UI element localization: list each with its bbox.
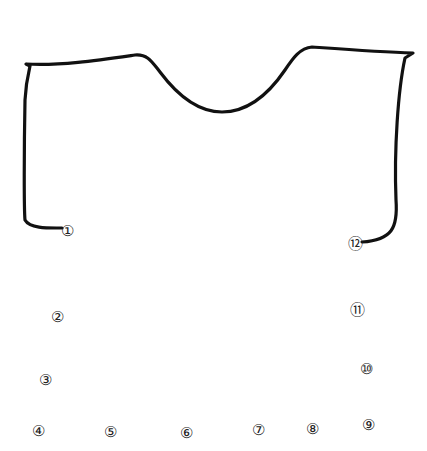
point-label-6: ⑥ <box>180 426 193 441</box>
pattern-outline-path <box>24 47 413 242</box>
point-label-11: ⑪ <box>350 303 365 318</box>
point-label-5: ⑤ <box>104 425 117 440</box>
point-label-9: ⑨ <box>362 418 375 433</box>
point-label-3: ③ <box>39 373 52 388</box>
point-label-12: ⑫ <box>348 237 363 252</box>
point-label-2: ② <box>51 310 64 325</box>
point-label-4: ④ <box>32 424 45 439</box>
point-label-8: ⑧ <box>306 422 319 437</box>
point-label-1: ① <box>61 224 74 239</box>
point-label-7: ⑦ <box>252 423 265 438</box>
point-label-10: ⑩ <box>360 362 373 377</box>
